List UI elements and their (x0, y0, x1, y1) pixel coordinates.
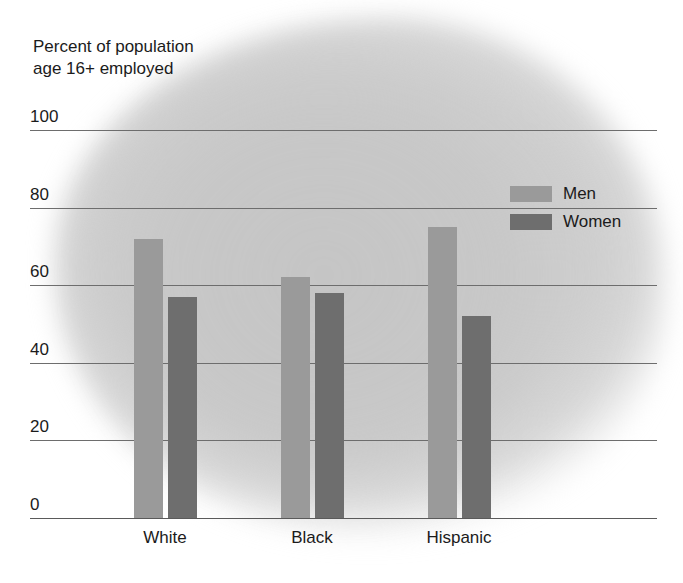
y-axis-tick-60: 60 (30, 262, 76, 282)
gridline-40 (30, 363, 657, 364)
gridline-0 (30, 518, 657, 519)
y-axis-tick-40: 40 (30, 340, 76, 360)
bar-black-women (315, 293, 344, 518)
bar-hispanic-men (428, 227, 457, 518)
y-axis-tick-100: 100 (30, 107, 76, 127)
x-axis-tick-black: Black (242, 528, 382, 548)
legend-swatch-men-icon (510, 186, 552, 202)
chart-legend: Men Women (510, 180, 621, 236)
bar-hispanic-women (462, 316, 491, 518)
gridline-100 (30, 130, 657, 131)
legend-item-men: Men (510, 180, 621, 208)
gridline-60 (30, 285, 657, 286)
y-axis-tick-0: 0 (30, 495, 76, 515)
y-axis-tick-80: 80 (30, 185, 76, 205)
y-axis-tick-20: 20 (30, 417, 76, 437)
legend-label-men: Men (563, 184, 596, 204)
legend-label-women: Women (563, 212, 621, 232)
bar-black-men (281, 277, 310, 518)
plot-area: 020406080100WhiteBlackHispanic (0, 0, 683, 583)
gridline-20 (30, 440, 657, 441)
bar-white-women (168, 297, 197, 518)
bar-white-men (134, 239, 163, 518)
x-axis-tick-hispanic: Hispanic (389, 528, 529, 548)
legend-item-women: Women (510, 208, 621, 236)
legend-swatch-women-icon (510, 214, 552, 230)
chart-screenshot: Percent of population age 16+ employed 0… (0, 0, 683, 583)
x-axis-tick-white: White (95, 528, 235, 548)
